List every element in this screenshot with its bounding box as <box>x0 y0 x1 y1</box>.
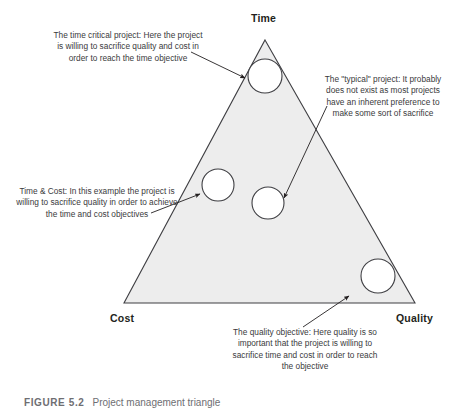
figure-caption-number: FIGURE 5.2 <box>24 397 84 408</box>
figure-caption-text: Project management triangle <box>92 397 220 408</box>
vertex-label-cost: Cost <box>110 312 134 324</box>
time-cost-marker <box>202 169 234 201</box>
typical-marker <box>252 187 284 219</box>
callout-time-and-cost: Time & Cost: In this example the project… <box>12 186 182 220</box>
vertex-label-quality: Quality <box>396 312 433 324</box>
figure-caption: FIGURE 5.2Project management triangle <box>24 396 444 408</box>
callout-typical-project: The "typical" project: It probably does … <box>318 74 448 120</box>
callout-quality-objective: The quality objective: Here quality is s… <box>231 327 379 373</box>
project-triangle-figure: Time Cost Quality The time critical proj… <box>0 0 451 408</box>
callout-time-critical: The time critical project: Here the proj… <box>52 30 204 64</box>
time-critical-marker <box>248 59 282 93</box>
quality-marker <box>361 259 395 293</box>
vertex-label-time: Time <box>251 12 276 24</box>
